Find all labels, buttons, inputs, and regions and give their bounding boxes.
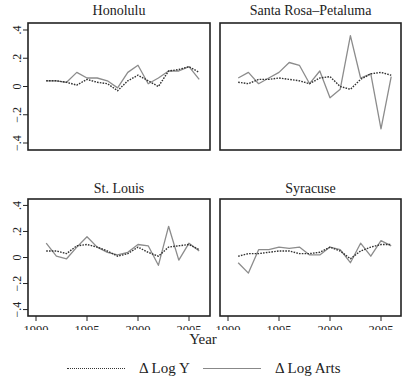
series-log-y-line: [238, 72, 391, 89]
x-tick-label: 2005: [369, 323, 394, 330]
plot-frame: [28, 199, 210, 316]
legend: Δ Log Y Δ Log Arts: [0, 356, 406, 380]
x-tick-label: 1995: [267, 323, 292, 330]
dotted-line-swatch-icon: [67, 368, 125, 369]
panel-syracuse: Syracuse1990199520002005: [216, 181, 402, 330]
panel-title: St. Louis: [94, 181, 145, 196]
panel-title: Santa Rosa–Petaluma: [250, 3, 372, 18]
series-log-y-line: [46, 67, 199, 91]
x-tick-label: 2000: [126, 323, 151, 330]
x-axis-title: Year: [0, 331, 406, 348]
panel-st-louis: St. Louis.4.20−.2−.41990199520002005: [10, 181, 210, 330]
x-tick-label: 2000: [318, 323, 343, 330]
legend-label: Δ Log Y: [139, 360, 190, 377]
legend-item-log-arts: Δ Log Arts: [203, 356, 341, 380]
series-log-y-line: [238, 245, 391, 259]
y-tick-label: −.4: [10, 135, 24, 151]
panel-title: Honolulu: [93, 3, 146, 18]
series-log-arts-line: [46, 65, 199, 88]
legend-item-log-y: Δ Log Y: [67, 356, 190, 380]
x-tick-label: 1990: [216, 323, 241, 330]
y-tick-label: .4: [10, 201, 24, 210]
solid-line-swatch-icon: [203, 368, 261, 369]
panel-title: Syracuse: [285, 181, 336, 196]
small-multiples-chart: Honolulu.4.20−.2−.4Santa Rosa–PetalumaSt…: [0, 0, 406, 330]
legend-label: Δ Log Arts: [275, 360, 341, 377]
x-tick-label: 1995: [75, 323, 100, 330]
y-tick-label: 0: [10, 255, 24, 261]
panel-santa-rosa-petaluma: Santa Rosa–Petaluma: [220, 3, 401, 150]
y-tick-label: .2: [10, 54, 24, 63]
series-log-arts-line: [238, 241, 391, 274]
y-tick-label: −.2: [10, 107, 24, 123]
y-tick-label: −.4: [10, 302, 24, 318]
plot-frame: [220, 23, 401, 150]
plot-frame: [220, 199, 401, 316]
y-tick-label: .2: [10, 227, 24, 236]
panel-honolulu: Honolulu.4.20−.2−.4: [10, 3, 210, 151]
series-log-arts-line: [238, 36, 391, 129]
x-tick-label: 1990: [24, 323, 49, 330]
y-tick-label: −.2: [10, 276, 24, 292]
y-tick-label: 0: [10, 84, 24, 90]
y-tick-label: .4: [10, 25, 24, 34]
x-tick-label: 2005: [177, 323, 202, 330]
